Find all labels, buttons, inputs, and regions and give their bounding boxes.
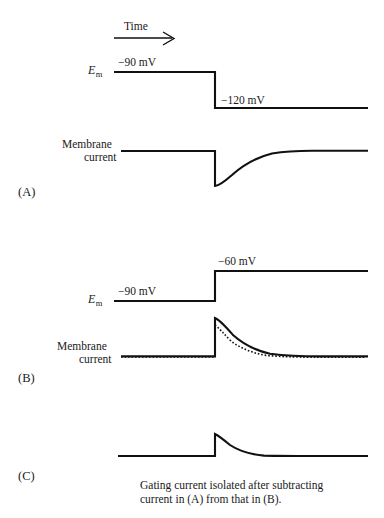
panel-c-caption-line2: current in (A) from that in (B). xyxy=(140,493,282,506)
panel-c: (C) Gating current isolated after subtra… xyxy=(18,434,368,506)
panel-c-label: (C) xyxy=(18,469,35,483)
panel-a-em-label: Em xyxy=(87,63,103,79)
time-axis: Time xyxy=(114,20,174,45)
panel-b-current-label-line1: Membrane xyxy=(57,340,107,352)
panel-a: (A) Em −90 mV −120 mV Membrane current xyxy=(18,56,368,199)
panel-a-em-subscript: m xyxy=(96,69,103,79)
panel-b-holding-value: −90 mV xyxy=(118,285,157,297)
panel-c-caption-line1: Gating current isolated after subtractin… xyxy=(140,479,324,492)
panel-b-dotted-overlay-trace xyxy=(121,325,366,357)
panel-a-holding-value: −90 mV xyxy=(118,56,157,68)
electrophysiology-figure: Time (A) Em −90 mV −120 mV Membrane curr… xyxy=(0,0,384,518)
panel-b-em-subscript: m xyxy=(96,298,103,308)
panel-b-current-label-line2: current xyxy=(79,353,112,365)
time-axis-label: Time xyxy=(124,20,148,32)
panel-a-current-label-line2: current xyxy=(84,151,117,163)
rightward-arrow-icon xyxy=(114,32,174,45)
panel-b-em-label: Em xyxy=(87,292,103,308)
panel-a-current-trace xyxy=(121,151,368,186)
panel-b: (B) −60 mV Em −90 mV Membrane current xyxy=(18,255,368,385)
panel-c-current-trace xyxy=(118,434,368,456)
panel-b-label: (B) xyxy=(18,371,35,385)
panel-b-current-trace xyxy=(121,318,368,356)
panel-b-step-value: −60 mV xyxy=(218,255,257,267)
panel-a-step-value: −120 mV xyxy=(221,94,266,106)
panel-a-current-label-line1: Membrane xyxy=(62,138,112,150)
panel-a-label: (A) xyxy=(18,185,35,199)
